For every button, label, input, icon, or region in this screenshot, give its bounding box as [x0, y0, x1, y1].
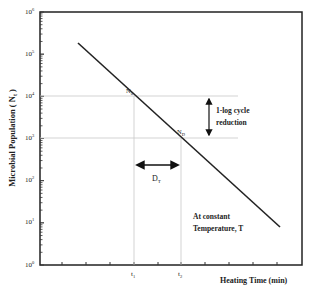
survivor-curve-line	[78, 43, 280, 227]
y-tick-1e1: 101	[25, 217, 34, 226]
y-tick-1e4: 104	[25, 91, 35, 100]
d-value-label: DT	[152, 174, 161, 184]
y-axis-label: Microbial Population ( Nt )	[7, 89, 18, 187]
y-tick-1e5: 105	[25, 49, 35, 58]
x-tick-t1: t1	[131, 270, 135, 279]
condition-label-line1: At constant	[193, 212, 230, 221]
x-axis-label: Heating Time (min)	[220, 276, 288, 285]
y-tick-1e3: 103	[25, 133, 35, 142]
y-tick-1e6: 106	[25, 7, 35, 16]
n0-label: N0	[126, 87, 134, 96]
y-tick-1e0: 100	[25, 260, 35, 269]
log-reduction-label-line1: 1-log cycle	[216, 106, 250, 115]
thermal-death-chart: 106 105 104 103 102 101 100 Microbial Po…	[0, 0, 315, 288]
y-tick-labels: 106 105 104 103 102 101 100	[25, 7, 35, 269]
condition-label-line2: Temperature, T	[193, 224, 243, 233]
log-reduction-label-line2: reduction	[216, 118, 248, 127]
y-tick-1e2: 102	[25, 175, 34, 184]
x-tick-t2: t2	[178, 270, 182, 279]
reference-lines	[40, 96, 238, 265]
plot-frame	[40, 12, 302, 265]
